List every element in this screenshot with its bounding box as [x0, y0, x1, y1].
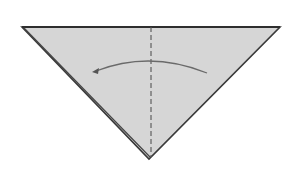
diagram-canvas	[0, 0, 301, 186]
origami-diagram	[0, 0, 301, 186]
